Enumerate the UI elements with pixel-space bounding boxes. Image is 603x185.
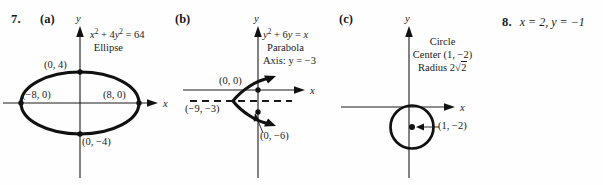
circle-radius-prefix: Radius 2 (418, 62, 455, 73)
parabola-axis-label: Axis: y = −3 (263, 54, 316, 67)
parabola-type-label: Parabola (263, 41, 316, 54)
parabola-dot-0-0 (255, 87, 260, 92)
circle-center-label: Center (1, −2) (390, 48, 495, 61)
ellipse-equation: x2 + 4y2 = 64 (90, 28, 145, 41)
panel-b-parabola: (b) y x y2 + 6y = x Parabola (175, 0, 335, 185)
figure-answer-key: 7. (a) y x x2 + 4y2 = 64 Ellipse (0, 0, 603, 185)
ellipse-equation-block: x2 + 4y2 = 64 Ellipse (90, 28, 145, 54)
circle-center-dot (409, 124, 415, 130)
ellipse-vertex-dot-top (77, 69, 82, 74)
parabola-equation-block: y2 + 6y = x Parabola Axis: y = −3 (263, 28, 316, 67)
panel-c-circle: (c) y x Circle Center (1, −2) Radius 2√2… (335, 0, 500, 185)
y-axis-label-a: y (76, 14, 81, 25)
circle-type-label: Circle (390, 35, 495, 48)
y-axis-label-b: y (254, 14, 259, 25)
ellipse-type-label: Ellipse (90, 41, 145, 54)
x-axis-arrowhead-c (444, 103, 455, 111)
ellipse-vertex-dot-left (18, 100, 23, 105)
circle-info-block: Circle Center (1, −2) Radius 2√2 (390, 35, 495, 74)
x-axis-label-c: x (460, 103, 465, 114)
x-axis-label-a: x (163, 99, 168, 110)
circle-radius-label: Radius 2√2 (390, 61, 495, 74)
y-axis-label-c: y (405, 14, 410, 25)
parabola-equation: y2 + 6y = x (263, 28, 316, 41)
problem-number-8: 8. (502, 15, 512, 29)
x-axis-label-b: x (310, 86, 315, 97)
parabola-dot-0-neg6 (255, 109, 260, 114)
ellipse-point-label-0-neg4: (0, −4) (82, 137, 111, 148)
ellipse-vertex-dot-right (136, 100, 141, 105)
parabola-point-label-0-neg6: (0, −6) (260, 131, 289, 142)
ellipse-point-label-0-4: (0, 4) (44, 60, 67, 71)
answer-item-8: 8. x = 2, y = −1 (502, 12, 585, 30)
circle-plot (335, 0, 500, 185)
answer-8-text: x = 2, y = −1 (520, 15, 585, 29)
ellipse-point-label-neg8-0: (−8, 0) (22, 90, 51, 101)
parabola-point-label-vertex: (−9, −3) (185, 104, 220, 115)
y-axis-arrowhead-a (76, 26, 84, 37)
x-axis-arrowhead-a (147, 99, 158, 107)
panel-a-ellipse: (a) y x x2 + 4y2 = 64 Ellipse (0, 4) (0, 0, 175, 185)
ellipse-point-label-8-0: (8, 0) (103, 90, 126, 101)
x-axis-arrowhead-b (294, 86, 305, 94)
circle-leader-arrowhead (416, 123, 424, 130)
circle-radius-radicand: 2 (461, 61, 467, 73)
y-axis-arrowhead-b (254, 26, 262, 37)
circle-center-point-label: (1, −2) (438, 121, 467, 132)
parabola-point-label-0-0: (0, 0) (219, 76, 242, 87)
